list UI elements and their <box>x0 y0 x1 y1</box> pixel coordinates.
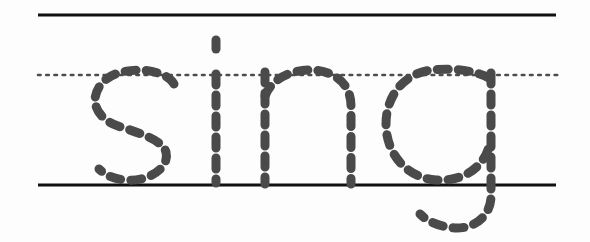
handwriting-worksheet: sing <box>0 0 590 242</box>
ruling-guides <box>0 0 590 242</box>
